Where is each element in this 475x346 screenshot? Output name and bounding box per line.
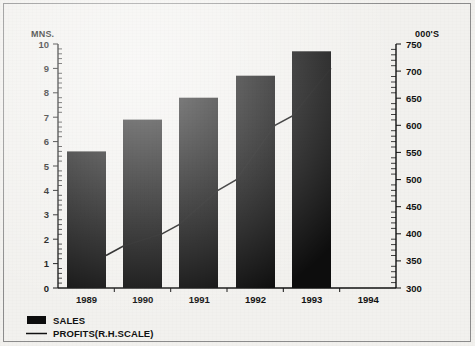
right-axis-unit-label: 000'S <box>415 29 439 39</box>
right-tick-300: 300 <box>406 283 422 294</box>
right-tick-750: 750 <box>406 39 422 50</box>
left-tick-1: 1 <box>44 258 50 269</box>
left-axis-ticks: 10 9 8 7 6 5 4 3 2 1 0 <box>38 39 58 294</box>
x-axis-year-labels: 1989 1990 1991 1992 1993 1994 <box>76 294 380 305</box>
right-tick-450: 450 <box>406 201 422 212</box>
right-tick-550: 550 <box>406 147 422 158</box>
right-tick-500: 500 <box>406 174 422 185</box>
left-tick-4: 4 <box>44 185 50 196</box>
right-axis-ticks: 750 700 650 600 550 500 450 400 350 300 <box>396 39 422 294</box>
right-axis-minor-ticks <box>391 49 396 282</box>
legend-label-sales: SALES <box>53 315 85 326</box>
year-label-1990: 1990 <box>132 294 153 305</box>
left-tick-5: 5 <box>44 161 50 172</box>
left-tick-9: 9 <box>44 63 49 74</box>
bar-line-chart: MNS. 000'S 10 9 8 7 6 5 4 3 2 1 0 <box>0 0 475 346</box>
bar-1990 <box>123 120 162 288</box>
left-tick-0: 0 <box>44 283 49 294</box>
right-tick-700: 700 <box>406 66 422 77</box>
right-tick-600: 600 <box>406 120 422 131</box>
left-tick-10: 10 <box>38 39 49 50</box>
left-tick-6: 6 <box>44 136 49 147</box>
year-label-1993: 1993 <box>301 294 322 305</box>
bar-1992 <box>236 76 275 288</box>
right-tick-400: 400 <box>406 228 422 239</box>
right-tick-350: 350 <box>406 255 422 266</box>
right-tick-650: 650 <box>406 93 422 104</box>
left-tick-2: 2 <box>44 234 49 245</box>
legend-label-profits: PROFITS(R.H.SCALE) <box>53 328 154 339</box>
left-tick-8: 8 <box>44 87 49 98</box>
left-tick-7: 7 <box>44 112 49 123</box>
year-label-1994: 1994 <box>358 294 380 305</box>
year-label-1989: 1989 <box>76 294 97 305</box>
year-label-1992: 1992 <box>245 294 266 305</box>
chart-legend: SALES PROFITS(R.H.SCALE) <box>26 315 154 340</box>
bar-1989 <box>67 151 106 288</box>
bar-1991 <box>179 98 218 288</box>
left-axis-unit-label: MNS. <box>31 29 54 39</box>
year-label-1991: 1991 <box>189 294 211 305</box>
legend-swatch-sales <box>27 316 46 324</box>
bar-1993 <box>292 51 331 288</box>
sales-bars <box>67 51 331 288</box>
left-tick-3: 3 <box>44 209 49 220</box>
